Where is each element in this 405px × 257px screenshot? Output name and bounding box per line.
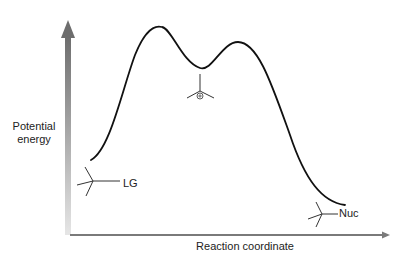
x-axis-label: Reaction coordinate	[170, 240, 320, 253]
x-axis	[70, 232, 390, 239]
y-axis-label-line1: Potential	[4, 120, 64, 133]
product-structure-icon	[308, 202, 338, 227]
leaving-group-label: LG	[123, 177, 138, 190]
y-axis-arrow-icon	[61, 20, 75, 38]
carbocation-icon	[187, 74, 214, 99]
nucleophile-label: Nuc	[339, 207, 359, 220]
y-axis-label-line2: energy	[4, 133, 64, 146]
reactant-structure-icon	[77, 167, 120, 196]
x-axis-arrow-icon	[382, 232, 390, 239]
y-axis-label: Potential energy	[4, 120, 64, 146]
